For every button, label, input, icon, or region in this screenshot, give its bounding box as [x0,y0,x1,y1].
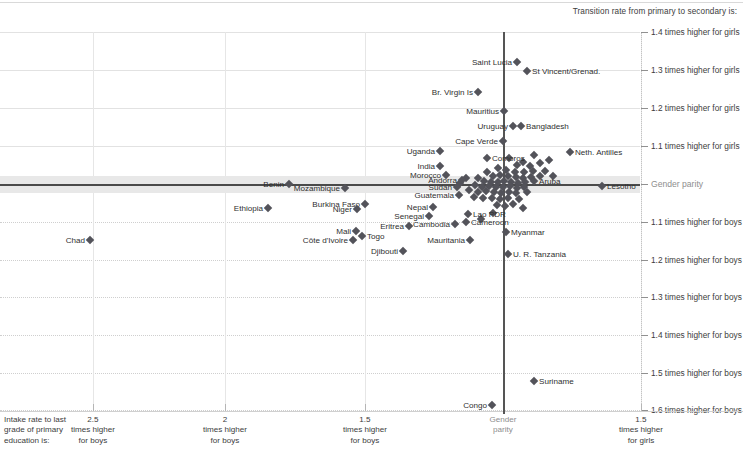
data-point[interactable] [536,159,544,167]
data-point-label: Niger [333,205,352,214]
data-point-label: Benin [263,180,284,189]
y-axis-label: 1.1 times higher for boys [651,217,742,227]
data-point-label: Comoros [492,154,525,163]
x-axis-label: 2.5times higherfor boys [71,415,115,446]
data-point[interactable] [566,148,574,156]
top-divider [0,2,743,3]
data-point-label: Cambodia [413,220,450,229]
data-point-label: Côte d'Ivoire [303,236,348,245]
data-point[interactable] [530,377,538,385]
y-axis-tick [641,146,648,147]
data-point[interactable] [436,147,444,155]
horizontal-gridline [0,108,640,109]
y-axis-label: 1.4 times higher for boys [651,330,742,340]
horizontal-gridline [0,335,640,336]
data-point-label: Br. Virgin Is [432,88,473,97]
data-point-label: Guatemala [414,191,454,200]
data-point-label: Mozambique [294,184,340,193]
data-point[interactable] [349,236,357,244]
data-point[interactable] [405,222,413,230]
data-point-label: Mauritania [427,236,465,245]
x-axis-parity-label: Genderparity [490,415,517,436]
y-axis-label: 1.3 times higher for boys [651,292,742,302]
vertical-gridline [225,32,226,410]
data-point[interactable] [519,204,527,212]
plot-area: Saint LuciaSt Vincent/Grenad.Br. Virgin … [0,32,640,410]
y-axis-tick [641,32,648,33]
data-point-label: Ethiopia [234,204,263,213]
data-point-label: Mauritius [466,107,499,116]
x-axis-tick [641,404,642,411]
data-point-label: Cape Verde [455,137,498,146]
y-axis-tick [641,222,648,223]
data-point-label: U. R. Tanzania [513,250,566,259]
data-point-label: Suriname [539,377,574,386]
horizontal-gridline [0,32,640,33]
y-axis-label: 1.1 times higher for girls [651,141,740,151]
x-axis-label: 2times higherfor boys [203,415,247,446]
y-axis-tick [641,184,648,185]
data-point-label: Bangladesh [526,122,569,131]
data-point[interactable] [517,122,525,130]
data-point-label: Cameroon [471,218,509,227]
horizontal-gridline [0,260,640,261]
data-point-label: Uruguay [477,122,508,131]
data-point[interactable] [466,236,474,244]
x-axis-intro-label: Intake rate to lastgrade of primaryeduca… [4,415,66,446]
data-point[interactable] [474,88,482,96]
data-point[interactable] [523,67,531,75]
y-axis-tick [641,373,648,374]
data-point[interactable] [462,218,470,226]
x-axis-tick [93,404,94,411]
y-axis-tick [641,108,648,109]
data-point-label: Djibouti [371,247,398,256]
data-point-label: Lesotho [607,182,636,191]
horizontal-gridline [0,373,640,374]
y-axis-tick [641,297,648,298]
horizontal-gridline [0,297,640,298]
chart-title: Transition rate from primary to secondar… [573,7,737,16]
data-point[interactable] [429,203,437,211]
data-point-label: Neth. Antilles [575,148,622,157]
data-point-label: Togo [367,232,385,241]
data-point-label: India [417,162,435,171]
x-axis-tick [365,404,366,411]
y-axis-label: 1.5 times higher for boys [651,368,742,378]
y-axis-label: 1.2 times higher for girls [651,103,740,113]
x-axis-label: 1.5times higherfor boys [343,415,387,446]
horizontal-gridline [0,146,640,147]
data-point[interactable] [264,204,272,212]
y-axis-parity-label: Gender parity [651,179,703,189]
y-axis-tick [641,335,648,336]
data-point-label: Uganda [407,147,435,156]
vertical-gridline [93,32,94,410]
gender-parity-vertical-line-extension [503,410,505,414]
data-point-label: Nepal [407,203,428,212]
data-point[interactable] [361,200,369,208]
data-point[interactable] [483,154,491,162]
data-point-label: St Vincent/Grenad. [532,67,600,76]
data-point-label: Eritrea [380,222,404,231]
data-point[interactable] [399,247,407,255]
data-point[interactable] [488,401,496,409]
data-point[interactable] [545,156,553,164]
data-point[interactable] [530,151,538,159]
y-axis-label: 1.4 times higher for girls [651,27,740,37]
data-point-label: Chad [66,236,85,245]
data-point[interactable] [504,250,512,258]
y-axis-tick [641,70,648,71]
data-point-label: Congo [463,401,487,410]
data-point-label: Mali [336,227,351,236]
data-point[interactable] [513,58,521,66]
vertical-gridline [365,32,366,410]
y-axis-label: 1.6 times higher for boys [651,405,742,415]
data-point[interactable] [499,137,507,145]
data-point-label: Aruba [539,177,561,186]
y-axis-label: 1.3 times higher for girls [651,65,740,75]
scatter-chart-root: Transition rate from primary to secondar… [0,0,743,455]
data-point-label: Myanmar [511,228,545,237]
x-axis-line [0,411,743,412]
x-axis-tick [225,404,226,411]
data-point[interactable] [436,162,444,170]
x-axis-label: 1.5times higherfor girls [619,415,663,446]
